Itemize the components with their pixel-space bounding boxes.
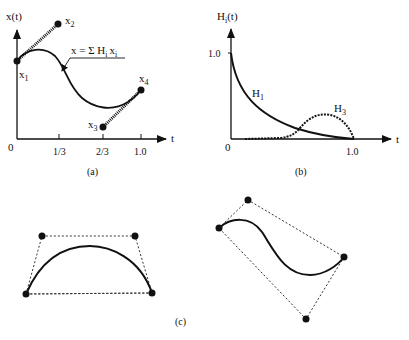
point-x1-label: x1: [19, 68, 29, 83]
formula-leader-line: [62, 58, 125, 71]
point-x3: [100, 124, 107, 131]
panel-b-x-label: t: [396, 133, 399, 145]
curve-arch: [26, 246, 152, 294]
panel-b-x-tick-label: 1.0: [346, 146, 359, 157]
control-polygon-left-base: [26, 293, 152, 294]
point-x3-label: x3: [88, 118, 98, 133]
panel-b-origin-label: 0: [225, 141, 231, 153]
panel-b: Hi(t) t 0 1.0 1.0 H1 H3 (b): [208, 10, 399, 178]
control-point-right-3: [341, 254, 348, 261]
panel-a-tick-label-3: 1.0: [134, 146, 147, 157]
point-x2: [55, 21, 62, 28]
control-point-right-2: [245, 197, 252, 204]
panel-a-tick-label-1: 1/3: [53, 146, 66, 157]
control-point-left-2: [39, 233, 46, 240]
control-point-left-1: [23, 291, 30, 298]
panel-c-caption: (c): [175, 316, 186, 328]
point-x2-label: x2: [65, 14, 75, 29]
point-x1: [14, 58, 21, 65]
panel-b-y-label: Hi(t): [217, 10, 238, 25]
panel-a-caption: (a): [87, 166, 98, 178]
point-x4: [138, 87, 145, 94]
panel-a-origin-label: 0: [8, 141, 14, 153]
control-point-right-1: [216, 225, 223, 232]
curve-h3: [245, 114, 354, 139]
panel-a-tick-label-2: 2/3: [96, 146, 109, 157]
panel-b-caption: (b): [295, 166, 307, 178]
control-point-right-4: [303, 316, 310, 323]
formula-label: x = Σ Hixi: [71, 44, 118, 59]
panel-a: x(t) t 0 1/3 2/3 1.0 x = Σ Hixi x1 x2 x3…: [6, 10, 174, 178]
curve-s: [219, 220, 344, 275]
figure-svg: x(t) t 0 1/3 2/3 1.0 x = Σ Hixi x1 x2 x3…: [0, 0, 409, 340]
hermite-curve-figure: x(t) t 0 1/3 2/3 1.0 x = Σ Hixi x1 x2 x3…: [0, 0, 409, 340]
panel-b-y-tick-label: 1.0: [208, 48, 221, 59]
panel-c: (c): [23, 197, 348, 329]
control-point-left-3: [132, 233, 139, 240]
panel-a-y-label: x(t): [6, 10, 22, 23]
control-point-left-4: [149, 290, 156, 297]
curve-h1-label: H1: [252, 87, 264, 102]
curve-h1: [231, 53, 354, 139]
panel-a-x-label: t: [171, 132, 174, 144]
point-x4-label: x4: [139, 72, 149, 87]
curve-h3-label: H3: [334, 102, 346, 117]
